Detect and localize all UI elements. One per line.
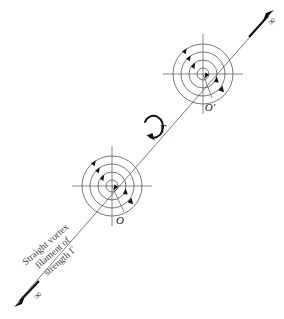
diagram-canvas: O O′ Γ: [0, 0, 284, 319]
vortex-cross-section-O: O: [72, 146, 152, 226]
upper-infinity-label: ∞: [265, 15, 278, 28]
vortex-O-flow-arrow-6: [91, 160, 96, 166]
vortex-Oprime-flow-arrow-6: [182, 48, 187, 54]
circulation-rotation-arrowhead: [147, 133, 155, 141]
filament-caption-group: Straight vortex filament of strength Γ: [20, 221, 85, 284]
vortex-Oprime-flow-arrow-5: [186, 55, 191, 61]
vortex-Oprime-label: O′: [205, 101, 216, 113]
vortex-cross-section-O-prime: O′: [163, 34, 243, 114]
vortex-O-label: O: [116, 214, 124, 226]
vortex-O-flow-arrow-2: [123, 189, 128, 195]
vortex-O-flow-arrow-5: [95, 167, 100, 173]
circulation-gamma-label: Γ: [160, 123, 167, 135]
lower-infinity-label: ∞: [31, 289, 44, 302]
vortex-Oprime-flow-arrow-1: [205, 73, 209, 79]
circulation-rotation-group: Γ: [145, 116, 167, 141]
vortex-filament-figure: O O′ Γ: [0, 0, 284, 319]
